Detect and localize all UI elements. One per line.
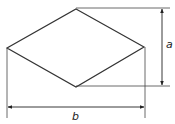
rhombus-shape xyxy=(7,9,144,87)
rhombus-diagram: a b xyxy=(0,0,175,124)
dimension-label-b: b xyxy=(72,110,79,123)
dimension-label-a: a xyxy=(166,38,173,51)
